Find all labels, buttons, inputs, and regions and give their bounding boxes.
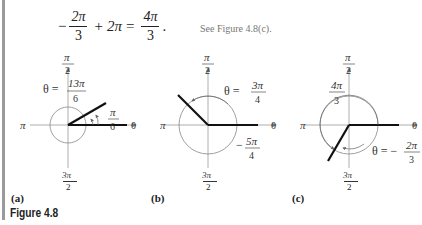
figure-panel-c: π 2 π 0 4π 3 θ = − 2π 3 3π [300, 48, 422, 178]
svg-text:π: π [300, 119, 306, 131]
svg-text:−: − [236, 138, 243, 152]
svg-text:2: 2 [346, 65, 351, 76]
svg-text:0: 0 [412, 120, 417, 131]
minus-sign: − [58, 18, 66, 35]
svg-text:θ =: θ = [43, 82, 59, 96]
svg-text:13π: 13π [68, 77, 85, 89]
figure-caption: Figure 4.8 [10, 206, 58, 220]
figure-panel-a: π 2 π 0 θ = 13π 6 π 6 3π [20, 48, 140, 178]
see-figure-note: See Figure 4.8(c). [200, 23, 272, 34]
bottom-den-b: 2 [206, 182, 211, 192]
term-2pi: 2π [107, 18, 122, 35]
plus-sign: + [94, 18, 102, 35]
svg-text:π: π [110, 106, 116, 118]
fraction-2pi-3: 2π 3 [69, 10, 87, 43]
figure-panel-b: π 2 π 0 θ = 3π 4 − 5π 4 3π [160, 48, 280, 178]
svg-text:2: 2 [205, 65, 210, 76]
panel-label-b: (b) [151, 192, 164, 204]
svg-text:3π: 3π [251, 79, 264, 91]
svg-text:π: π [204, 51, 210, 63]
panel-label-c: (c) [292, 192, 304, 204]
svg-text:6: 6 [110, 121, 115, 132]
svg-text:4: 4 [255, 94, 260, 105]
svg-text:3: 3 [334, 95, 339, 106]
svg-text:θ = −: θ = − [372, 144, 398, 158]
svg-text:π: π [345, 51, 351, 63]
svg-text:π: π [64, 51, 70, 63]
svg-text:3: 3 [409, 154, 414, 165]
svg-text:θ =: θ = [224, 84, 240, 98]
svg-text:π: π [20, 119, 26, 131]
svg-text:3π: 3π [61, 170, 72, 178]
svg-text:0: 0 [131, 120, 136, 131]
margin-bar [2, 0, 5, 220]
bottom-den-a: 2 [66, 182, 71, 192]
svg-text:6: 6 [73, 93, 78, 104]
panel-label-a: (a) [11, 192, 24, 204]
svg-text:5π: 5π [246, 135, 258, 147]
svg-text:π: π [160, 119, 166, 131]
svg-text:3π: 3π [201, 170, 212, 178]
svg-text:3π: 3π [342, 170, 353, 178]
svg-text:0: 0 [271, 120, 276, 131]
fraction-4pi-3: 4π 3 [141, 10, 159, 43]
svg-text:2: 2 [65, 65, 70, 76]
svg-text:4π: 4π [331, 79, 343, 91]
equation: − 2π 3 + 2π = 4π 3 . [58, 6, 166, 46]
equals-sign: = [126, 18, 134, 35]
svg-text:2π: 2π [406, 139, 418, 151]
bottom-den-c: 2 [347, 182, 352, 192]
svg-text:4: 4 [249, 150, 254, 161]
